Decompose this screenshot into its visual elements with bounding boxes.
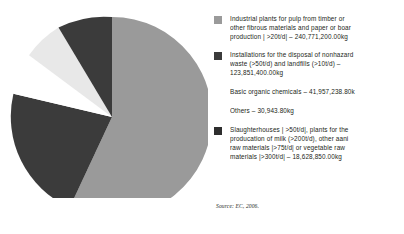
legend-line: Others – 30,943.80kg xyxy=(230,106,404,115)
source-note: Source: EC, 2006. xyxy=(216,203,259,209)
legend-swatch-slaughterhouses-milk xyxy=(214,127,222,135)
legend-item-waste-disposal-landfills: Installations for the disposal of nonhaz… xyxy=(214,50,404,77)
legend-line: other fibrous materials and paper or boa… xyxy=(230,23,404,32)
legend-item-basic-organic-chemicals: Basic organic chemicals – 41,957,238.80k xyxy=(214,87,404,97)
legend-label-basic-organic-chemicals: Basic organic chemicals – 41,957,238.80k xyxy=(230,87,404,96)
legend-line: Installations for the disposal of nonhaz… xyxy=(230,50,404,59)
legend-line: Slaughterhouses | >50t/d|, plants for th… xyxy=(230,125,404,134)
pie-svg xyxy=(8,2,208,198)
legend-label-waste-disposal-landfills: Installations for the disposal of nonhaz… xyxy=(230,50,404,77)
legend-label-slaughterhouses-milk: Slaughterhouses | >50t/d|, plants for th… xyxy=(230,125,404,161)
legend-line: materials |>300t/d| – 18,628,850.00kg xyxy=(230,152,404,161)
legend-line: Basic organic chemicals – 41,957,238.80k xyxy=(230,87,404,96)
legend-swatch-basic-organic-chemicals xyxy=(214,89,222,97)
legend-swatch-others xyxy=(214,108,222,116)
pie-chart-graphic xyxy=(8,2,208,198)
legend-item-slaughterhouses-milk: Slaughterhouses | >50t/d|, plants for th… xyxy=(214,125,404,161)
legend-swatch-industrial-pulp-paper xyxy=(214,16,222,24)
legend-item-others: Others – 30,943.80kg xyxy=(214,106,404,116)
legend-swatch-waste-disposal-landfills xyxy=(214,52,222,60)
legend-line: waste (>50t/d) and landfills (>10t/d) – xyxy=(230,59,404,68)
pie-slices xyxy=(11,17,208,198)
legend-label-others: Others – 30,943.80kg xyxy=(230,106,404,115)
chart-legend: Industrial plants for pulp from timber o… xyxy=(214,14,404,170)
legend-label-industrial-pulp-paper: Industrial plants for pulp from timber o… xyxy=(230,14,404,41)
pie-chart-figure: Industrial plants for pulp from timber o… xyxy=(0,0,404,234)
legend-line: Industrial plants for pulp from timber o… xyxy=(230,14,404,23)
legend-line: raw materials |>75t/d| or vegetable raw xyxy=(230,143,404,152)
legend-line: producation of milk (>200t/d), other aan… xyxy=(230,134,404,143)
legend-item-industrial-pulp-paper: Industrial plants for pulp from timber o… xyxy=(214,14,404,41)
legend-line: 123,851,400.00kg xyxy=(230,68,404,77)
legend-line: production | >20t/d| – 240,771,200.00kg xyxy=(230,32,404,41)
